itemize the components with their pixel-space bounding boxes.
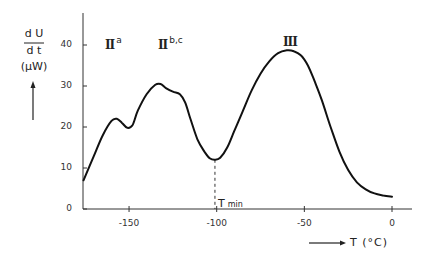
peak-label-IIa: IIa bbox=[105, 38, 122, 52]
peak-label-IIbc: IIb,c bbox=[158, 38, 183, 52]
tmin-label: Tmin bbox=[218, 197, 243, 210]
y-axis-label-denominator: d t bbox=[22, 44, 46, 57]
y-tick-label: 10 bbox=[58, 162, 72, 172]
y-tick-label: 30 bbox=[58, 80, 72, 90]
peak-label-III: III bbox=[283, 35, 297, 49]
tmin-label-main: T bbox=[218, 197, 225, 210]
peak-label-IIbc-main: II bbox=[158, 38, 167, 52]
x-tick-label: -50 bbox=[289, 218, 319, 228]
x-tick-label: 0 bbox=[377, 218, 407, 228]
x-axis-arrow bbox=[309, 241, 346, 246]
peak-label-IIa-sup: a bbox=[116, 35, 122, 45]
y-axis-label-unit: (μW) bbox=[17, 60, 51, 73]
axes bbox=[83, 13, 412, 209]
y-tick-label: 40 bbox=[58, 39, 72, 49]
y-tick-label: 20 bbox=[58, 121, 72, 131]
x-tick-label: -100 bbox=[202, 218, 232, 228]
peak-label-IIbc-sup: b,c bbox=[169, 35, 183, 45]
data-curve bbox=[84, 50, 393, 197]
x-tick-label: -150 bbox=[114, 218, 144, 228]
peak-label-IIa-main: II bbox=[105, 38, 114, 52]
y-axis-arrow bbox=[31, 81, 36, 120]
y-axis-label-numerator: d U bbox=[22, 27, 46, 40]
y-tick-label: 0 bbox=[58, 203, 72, 213]
x-axis-label: T (°C) bbox=[350, 236, 388, 249]
tmin-label-sub: min bbox=[228, 200, 243, 209]
